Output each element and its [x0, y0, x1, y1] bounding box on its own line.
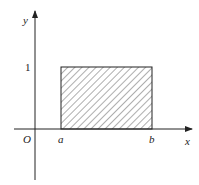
coordinate-diagram: y x O a b 1	[0, 0, 199, 185]
origin-label: O	[23, 133, 31, 145]
height-one-label: 1	[25, 61, 31, 73]
b-label: b	[149, 133, 155, 145]
a-label: a	[58, 133, 64, 145]
y-axis-label: y	[22, 14, 28, 26]
hatched-region	[61, 67, 152, 129]
x-axis-label: x	[184, 135, 190, 147]
